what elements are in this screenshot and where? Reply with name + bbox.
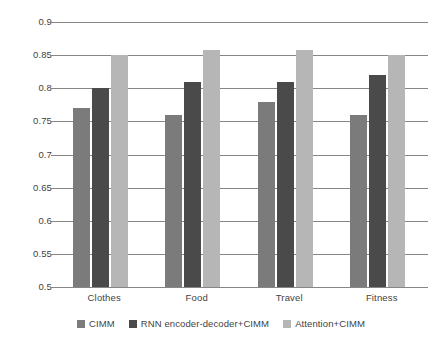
x-tick-label: Fitness xyxy=(336,292,429,304)
bar[interactable] xyxy=(165,115,182,287)
y-tick-label: 0.5 xyxy=(6,282,52,292)
bar-group xyxy=(243,22,336,287)
y-tick-mark xyxy=(51,188,58,189)
y-tick-label: 0.55 xyxy=(6,249,52,259)
bar[interactable] xyxy=(296,50,313,287)
y-axis-ticks: 0.50.550.60.650.70.750.80.850.9 xyxy=(0,22,52,287)
y-tick-mark xyxy=(51,121,58,122)
legend-label: CIMM xyxy=(89,318,115,329)
x-axis-labels: ClothesFoodTravelFitness xyxy=(58,292,428,308)
y-tick-label: 0.85 xyxy=(6,50,52,60)
y-tick-label: 0.75 xyxy=(6,116,52,126)
legend-swatch-icon xyxy=(283,320,291,328)
bar[interactable] xyxy=(111,55,128,287)
bar[interactable] xyxy=(203,50,220,287)
legend-item[interactable]: RNN encoder-decoder+CIMM xyxy=(129,318,269,329)
bar[interactable] xyxy=(369,75,386,287)
legend-swatch-icon xyxy=(129,320,137,328)
bar[interactable] xyxy=(350,115,367,287)
y-tick-mark xyxy=(51,221,58,222)
plot-area xyxy=(58,22,428,287)
bar-chart: 0.50.550.60.650.70.750.80.850.9 ClothesF… xyxy=(0,0,442,344)
bar[interactable] xyxy=(277,82,294,287)
y-tick-mark xyxy=(51,254,58,255)
y-tick-mark xyxy=(51,55,58,56)
y-tick-mark xyxy=(51,88,58,89)
legend-item[interactable]: CIMM xyxy=(77,318,115,329)
chart-legend: CIMMRNN encoder-decoder+CIMMAttention+CI… xyxy=(0,318,442,329)
y-tick-label: 0.6 xyxy=(6,216,52,226)
y-tick-mark xyxy=(51,22,58,23)
x-tick-label: Clothes xyxy=(58,292,151,304)
x-axis-line xyxy=(58,287,428,288)
legend-label: Attention+CIMM xyxy=(295,318,365,329)
x-tick-label: Travel xyxy=(243,292,336,304)
y-tick-label: 0.8 xyxy=(6,83,52,93)
bar[interactable] xyxy=(92,88,109,287)
y-tick-label: 0.7 xyxy=(6,150,52,160)
x-tick-label: Food xyxy=(151,292,244,304)
legend-label: RNN encoder-decoder+CIMM xyxy=(141,318,269,329)
bar-group xyxy=(336,22,429,287)
bar-group xyxy=(58,22,151,287)
y-tick-label: 0.65 xyxy=(6,183,52,193)
y-tick-mark xyxy=(51,287,58,288)
y-tick-mark xyxy=(51,155,58,156)
legend-item[interactable]: Attention+CIMM xyxy=(283,318,365,329)
bar[interactable] xyxy=(258,102,275,288)
bar[interactable] xyxy=(73,108,90,287)
bar[interactable] xyxy=(184,82,201,287)
legend-swatch-icon xyxy=(77,320,85,328)
bar-group xyxy=(151,22,244,287)
y-tick-label: 0.9 xyxy=(6,17,52,27)
bar[interactable] xyxy=(388,55,405,287)
